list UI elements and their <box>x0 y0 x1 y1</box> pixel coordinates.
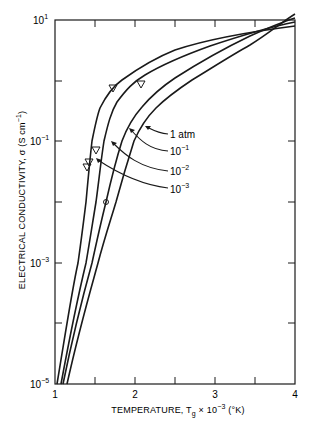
curve-label-10e-3: 10−3 <box>170 182 189 195</box>
curve-10e-1 <box>63 18 295 384</box>
x-tick-label-4: 4 <box>292 389 298 400</box>
plot-frame <box>55 20 295 384</box>
curve-label-10e-1: 10−1 <box>170 144 189 157</box>
y-axis-title: ELECTRICAL CONDUCTIVITY, σ (S cm−1) <box>15 111 27 290</box>
curve-10e-3 <box>57 26 295 384</box>
y-tick-label-10e-1: 10−1 <box>30 134 49 147</box>
conductivity-chart: 101 10−1 10−3 10−5 1 2 3 4 TEMPERATURE, … <box>0 0 315 429</box>
curve-label-10e-2: 10−2 <box>170 164 189 177</box>
triangle-down-marker <box>137 81 145 88</box>
y-tick-label-10e-5: 10−5 <box>30 377 49 390</box>
x-axis-ticks <box>95 20 255 384</box>
y-tick-label-10e1: 101 <box>33 13 48 26</box>
curve-1-atm <box>67 14 295 384</box>
x-tick-label-1: 1 <box>52 389 58 400</box>
curves <box>57 14 295 384</box>
curve-label-1-atm: 1 atm <box>170 129 195 140</box>
triangle-down-marker <box>92 147 100 154</box>
leader-lines <box>98 127 168 188</box>
x-tick-label-3: 3 <box>212 389 218 400</box>
y-tick-label-10e-3: 10−3 <box>30 256 49 269</box>
x-axis-title: TEMPERATURE, Tg × 10−3 (°K) <box>111 403 244 418</box>
x-tick-label-2: 2 <box>132 389 138 400</box>
